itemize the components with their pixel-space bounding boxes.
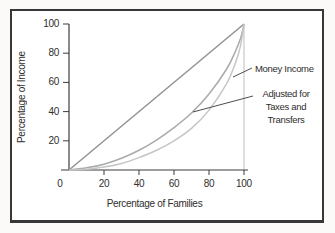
scanned-figure-page: 20406080100020406080100 Percentage of Fa… bbox=[0, 0, 335, 233]
x-axis-title: Percentage of Families bbox=[61, 198, 248, 209]
money-income-annotation: Money Income bbox=[255, 62, 325, 75]
y-tick-label-80: 80 bbox=[29, 47, 59, 59]
x-tick-label-0: 0 bbox=[47, 178, 73, 190]
y-tick-label-60: 60 bbox=[29, 76, 59, 88]
x-tick-label-80: 80 bbox=[196, 178, 222, 190]
y-tick-label-100: 100 bbox=[29, 18, 59, 30]
curves-layer bbox=[69, 24, 244, 170]
y-tick-label-40: 40 bbox=[29, 106, 59, 118]
y-tick-label-20: 20 bbox=[29, 135, 59, 147]
x-tick-label-20: 20 bbox=[91, 178, 117, 190]
lorenz-curve-figure-panel: 20406080100020406080100 Percentage of Fa… bbox=[10, 9, 324, 223]
x-tick-label-40: 40 bbox=[126, 178, 152, 190]
adjusted-taxes-transfers-annotation: Adjusted for Taxes and Transfers bbox=[253, 87, 319, 126]
money-income-leader-line bbox=[233, 68, 252, 77]
x-tick-label-60: 60 bbox=[161, 178, 187, 190]
x-tick-label-100: 100 bbox=[231, 178, 257, 190]
y-axis-title: Percentage of Income bbox=[16, 24, 27, 170]
